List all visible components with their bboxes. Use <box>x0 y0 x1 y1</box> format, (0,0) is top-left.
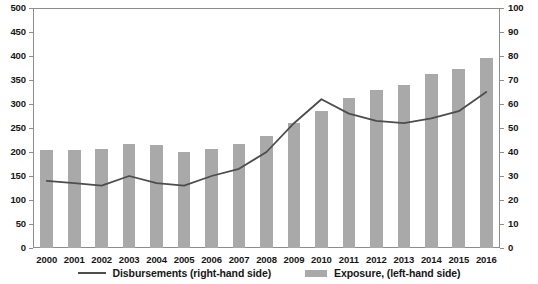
y-axis-left-tick-label: 400 <box>0 51 26 61</box>
y-axis-right-tick-mark <box>500 152 504 153</box>
legend-label-exposure: Exposure, (left-hand side) <box>334 267 460 279</box>
y-axis-right-tick-mark <box>500 128 504 129</box>
y-axis-right-tick-mark <box>500 248 504 249</box>
y-axis-left-tick-mark <box>29 176 33 177</box>
bar <box>123 144 136 248</box>
y-axis-left-tick-mark <box>29 224 33 225</box>
y-axis-left-tick-label: 0 <box>0 243 26 253</box>
y-axis-left-tick-mark <box>29 152 33 153</box>
y-axis-right-tick-mark <box>500 176 504 177</box>
y-axis-left-tick-label: 350 <box>0 75 26 85</box>
bar <box>260 136 273 248</box>
y-axis-right-tick-label: 10 <box>508 219 534 229</box>
legend-line-marker-icon <box>78 272 106 274</box>
y-axis-right-tick-mark <box>500 104 504 105</box>
bar <box>425 74 438 248</box>
y-axis-left-tick-mark <box>29 248 33 249</box>
y-axis-right-tick-mark <box>500 80 504 81</box>
y-axis-left-tick-label: 100 <box>0 195 26 205</box>
y-axis-right-tick-label: 20 <box>508 195 534 205</box>
chart-container: 050100150200250300350400450500 010203040… <box>0 0 538 284</box>
y-axis-left-tick-mark <box>29 128 33 129</box>
y-axis-left-tick-mark <box>29 8 33 9</box>
y-axis-right-tick-label: 70 <box>508 75 534 85</box>
y-axis-right-tick-label: 40 <box>508 147 534 157</box>
y-axis-left-tick-mark <box>29 56 33 57</box>
y-axis-right-tick-mark <box>500 200 504 201</box>
legend-item-disbursements: Disbursements (right-hand side) <box>78 267 272 279</box>
y-axis-left-tick-label: 300 <box>0 99 26 109</box>
y-axis-right-tick-label: 30 <box>508 171 534 181</box>
y-axis-left-tick-label: 200 <box>0 147 26 157</box>
bar <box>398 85 411 248</box>
y-axis-right-tick-label: 100 <box>508 3 534 13</box>
bar <box>95 149 108 248</box>
bar <box>178 152 191 248</box>
y-axis-right-tick-mark <box>500 224 504 225</box>
legend-label-disbursements: Disbursements (right-hand side) <box>113 267 272 279</box>
y-axis-right-tick-label: 60 <box>508 99 534 109</box>
y-axis-right-tick-label: 90 <box>508 27 534 37</box>
chart-legend: Disbursements (right-hand side) Exposure… <box>0 264 538 282</box>
legend-swatch-marker-icon <box>305 270 327 277</box>
bar <box>233 144 246 248</box>
y-axis-left-tick-label: 150 <box>0 171 26 181</box>
bar <box>40 150 53 248</box>
y-axis-right-tick-label: 50 <box>508 123 534 133</box>
bar <box>370 90 383 248</box>
y-axis-right-tick-mark <box>500 8 504 9</box>
y-axis-right-tick-label: 80 <box>508 51 534 61</box>
y-axis-left-tick-mark <box>29 80 33 81</box>
bar <box>315 111 328 248</box>
y-axis-left-tick-label: 50 <box>0 219 26 229</box>
legend-item-exposure: Exposure, (left-hand side) <box>305 267 460 279</box>
y-axis-left-tick-mark <box>29 104 33 105</box>
y-axis-right-tick-mark <box>500 56 504 57</box>
y-axis-left-tick-label: 500 <box>0 3 26 13</box>
y-axis-right-tick-mark <box>500 32 504 33</box>
bar <box>480 58 493 248</box>
y-axis-left-tick-mark <box>29 32 33 33</box>
bar <box>288 123 301 248</box>
bar <box>205 149 218 248</box>
y-axis-left-tick-label: 450 <box>0 27 26 37</box>
bar <box>68 150 81 248</box>
bar <box>452 69 465 248</box>
y-axis-right-tick-label: 0 <box>508 243 534 253</box>
bar <box>150 145 163 248</box>
bar <box>343 98 356 248</box>
y-axis-left-tick-label: 250 <box>0 123 26 133</box>
y-axis-left-tick-mark <box>29 200 33 201</box>
